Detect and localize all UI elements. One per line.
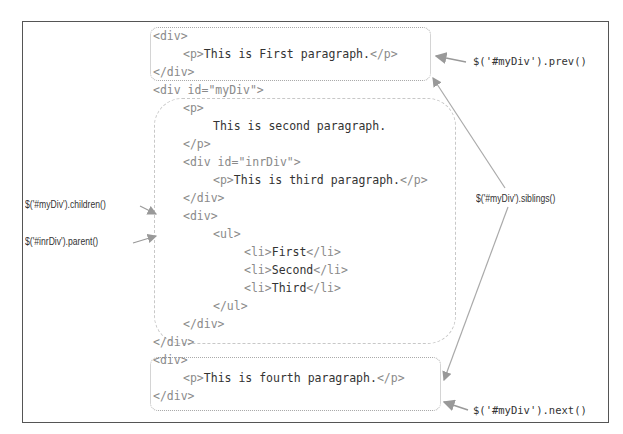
arrows-layer bbox=[0, 0, 623, 434]
children-arrow bbox=[140, 206, 156, 214]
next-arrow bbox=[444, 402, 468, 410]
prev-arrow bbox=[436, 56, 466, 62]
parent-arrow bbox=[133, 236, 156, 243]
siblings-arrow-up bbox=[433, 78, 505, 188]
siblings-arrow-down bbox=[444, 207, 508, 380]
